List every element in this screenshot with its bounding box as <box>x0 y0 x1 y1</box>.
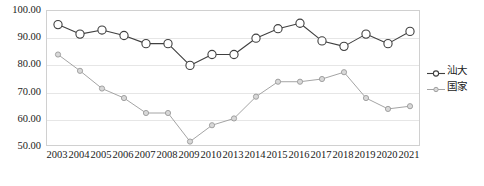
data-point <box>275 79 280 84</box>
x-axis-tick-label: 2003 <box>47 150 68 161</box>
data-point <box>297 79 302 84</box>
data-point <box>252 34 260 42</box>
x-axis-tick-label: 2017 <box>311 150 332 161</box>
series-line <box>58 55 410 142</box>
data-point <box>385 106 390 111</box>
data-point <box>319 76 324 81</box>
x-axis-tick-label: 2010 <box>201 150 222 161</box>
line-chart: 100.0090.0080.0070.0060.0050.00 20032004… <box>0 0 484 186</box>
legend-item-label: 汕大 <box>446 65 467 76</box>
data-point <box>340 42 348 50</box>
data-point <box>142 40 150 48</box>
data-point <box>186 61 194 69</box>
x-axis-tick-label: 2019 <box>355 150 376 161</box>
y-axis-tick-label: 70.00 <box>17 87 41 98</box>
x-axis-tick-label: 2005 <box>91 150 112 161</box>
data-point <box>384 40 392 48</box>
data-point <box>363 95 368 100</box>
series-layer <box>47 11 421 147</box>
data-point <box>165 110 170 115</box>
data-point <box>209 123 214 128</box>
data-point <box>99 86 104 91</box>
x-axis-tick-label: 2007 <box>135 150 156 161</box>
data-point <box>341 70 346 75</box>
x-axis-tick-label: 2008 <box>157 150 178 161</box>
x-axis-tick-label: 2009 <box>179 150 200 161</box>
data-point <box>77 68 82 73</box>
x-axis-tick-label: 2018 <box>333 150 354 161</box>
data-point <box>54 21 62 29</box>
x-axis-tick-label: 2004 <box>69 150 90 161</box>
data-point <box>76 30 84 38</box>
data-point <box>230 50 238 58</box>
y-axis: 100.0090.0080.0070.0060.0050.00 <box>0 0 44 186</box>
data-point <box>208 50 216 58</box>
x-axis-tick-label: 2020 <box>377 150 398 161</box>
data-point <box>406 27 414 35</box>
data-point <box>231 116 236 121</box>
data-point <box>121 95 126 100</box>
data-point <box>55 52 60 57</box>
x-axis-tick-label: 2013 <box>223 150 244 161</box>
series-1 <box>54 19 414 69</box>
y-axis-tick-label: 90.00 <box>17 32 41 43</box>
x-axis-tick-label: 2021 <box>399 150 420 161</box>
x-axis-tick-label: 2016 <box>289 150 310 161</box>
x-axis: 2003200420052006200720082009201020132014… <box>46 150 420 170</box>
legend-item-label: 国家 <box>446 81 467 92</box>
data-point <box>143 110 148 115</box>
x-axis-tick-label: 2014 <box>245 150 266 161</box>
data-point <box>164 40 172 48</box>
chart-legend: 汕大国家 <box>426 64 484 93</box>
plot-area <box>46 10 420 146</box>
data-point <box>98 26 106 34</box>
x-axis-tick-label: 2015 <box>267 150 288 161</box>
data-point <box>187 139 192 144</box>
data-point <box>253 94 258 99</box>
legend-item[interactable]: 汕大 <box>426 64 484 77</box>
legend-marker-icon <box>426 81 446 92</box>
data-point <box>318 37 326 45</box>
data-point <box>296 19 304 27</box>
x-axis-tick-label: 2006 <box>113 150 134 161</box>
y-axis-tick-label: 100.00 <box>12 5 41 16</box>
legend-item[interactable]: 国家 <box>426 80 484 93</box>
y-axis-tick-label: 60.00 <box>17 114 41 125</box>
data-point <box>120 31 128 39</box>
data-point <box>274 25 282 33</box>
legend-marker-icon <box>426 65 446 76</box>
series-2 <box>55 52 412 144</box>
y-axis-tick-label: 50.00 <box>17 141 41 152</box>
data-point <box>362 30 370 38</box>
y-axis-tick-label: 80.00 <box>17 59 41 70</box>
data-point <box>407 104 412 109</box>
